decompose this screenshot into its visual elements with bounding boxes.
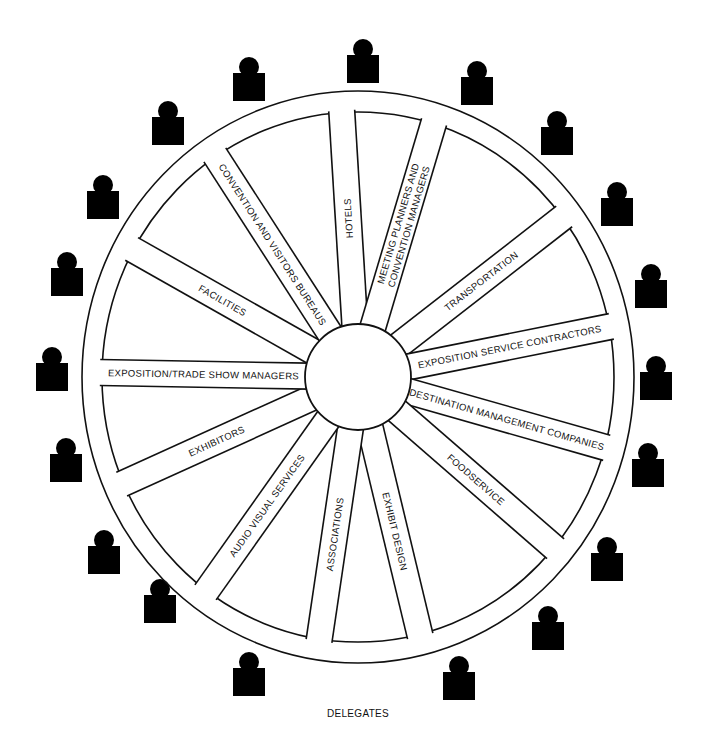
spoke-exposition-trade-show-managers: EXPOSITION/TRADE SHOW MANAGERS xyxy=(100,359,309,389)
person-icon xyxy=(635,264,667,308)
spoke-hotels: HOTELS xyxy=(329,110,368,329)
person-icon xyxy=(640,356,672,400)
person-icon xyxy=(51,252,83,296)
person-icon xyxy=(443,656,475,700)
spoke-label: FOODSERVICE xyxy=(445,452,507,508)
person-icon xyxy=(601,182,633,226)
person-icon xyxy=(50,438,82,482)
person-icon xyxy=(632,443,664,487)
person-icon xyxy=(233,57,265,101)
spoke-exhibit-design: EXHIBIT DESIGN xyxy=(357,422,433,640)
spoke-label: TRANSPORTATION xyxy=(442,249,520,313)
spoke-label: AUDIO VISUAL SERVICES xyxy=(227,452,307,559)
person-icon xyxy=(347,39,379,83)
wheel-hub xyxy=(305,324,411,430)
person-icon xyxy=(541,111,573,155)
person-icon xyxy=(144,579,176,623)
hospitality-industry-wheel-diagram: HOTELSMEETING PLANNERS ANDCONVENTION MAN… xyxy=(0,0,712,733)
person-icon xyxy=(532,606,564,650)
delegates-caption: DELEGATES xyxy=(327,708,389,719)
person-icon xyxy=(88,530,120,574)
person-icon xyxy=(87,175,119,219)
hub-circle xyxy=(305,324,411,430)
person-icon xyxy=(36,347,68,391)
person-icon xyxy=(233,652,265,696)
person-icon xyxy=(591,537,623,581)
person-icon xyxy=(152,101,184,145)
person-icon xyxy=(461,61,493,105)
